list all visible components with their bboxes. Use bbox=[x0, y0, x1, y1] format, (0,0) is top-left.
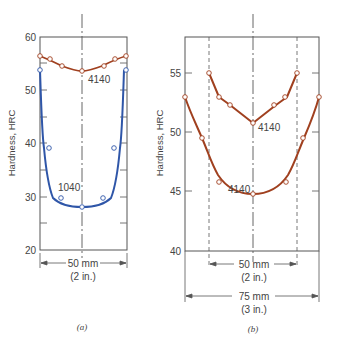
caption-a: (a) bbox=[77, 322, 88, 332]
ytick-50-b: 50 bbox=[170, 127, 182, 138]
ytick-20-a: 20 bbox=[25, 245, 37, 256]
series-label-1040-a: 1040 bbox=[58, 182, 81, 193]
outer-dimension-label-b: 75 mm bbox=[239, 291, 270, 302]
curve-4140-75mm-b bbox=[185, 97, 319, 194]
series-label-4140-a: 4140 bbox=[88, 74, 111, 85]
caption-b: (b) bbox=[248, 324, 259, 334]
markers-4140-a bbox=[38, 54, 129, 74]
ytick-50-a: 50 bbox=[25, 85, 37, 96]
series-label-4140-75mm-b: 4140 bbox=[228, 184, 251, 195]
ytick-55-b: 55 bbox=[170, 68, 182, 79]
ytick-40-a: 40 bbox=[25, 138, 37, 149]
panel-b: 55 50 45 40 Hardness, HRC 4140 4140 5 bbox=[154, 14, 321, 334]
y-axis-label-a: Hardness, HRC bbox=[6, 110, 17, 177]
dimension-sublabel-a: (2 in.) bbox=[70, 271, 96, 282]
ytick-30-a: 30 bbox=[25, 192, 37, 203]
dimension-label-a: 50 mm bbox=[68, 258, 99, 269]
ytick-60-a: 60 bbox=[25, 32, 37, 43]
inner-dimension-sublabel-b: (2 in.) bbox=[241, 272, 267, 283]
ytick-45-b: 45 bbox=[170, 186, 182, 197]
outer-dimension-sublabel-b: (3 in.) bbox=[241, 304, 267, 315]
inner-dimension-label-b: 50 mm bbox=[239, 259, 270, 270]
series-label-4140-50mm-b: 4140 bbox=[258, 122, 281, 133]
ytick-40-b: 40 bbox=[170, 246, 182, 257]
ticks-b bbox=[185, 73, 319, 191]
y-axis-label-b: Hardness, HRC bbox=[154, 110, 165, 177]
panel-a: 60 50 40 30 20 Hardness, HRC 1040 4140 bbox=[6, 14, 128, 332]
hardness-profile-figure: 60 50 40 30 20 Hardness, HRC 1040 4140 bbox=[0, 0, 337, 345]
